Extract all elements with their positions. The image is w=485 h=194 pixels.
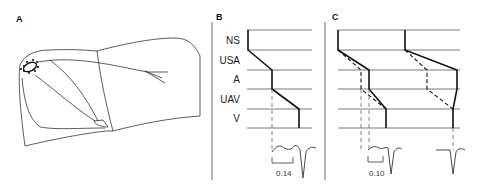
panel-c-label: C [332,12,339,22]
row-label-usa: USA [219,55,240,66]
panel-b-conduction-path [248,30,299,128]
row-label-a: A [233,74,240,85]
panel-c-alternate-paths [338,50,453,109]
panel-a-label: A [16,14,23,24]
panel-c-dashed-guides [361,89,453,150]
panel-b-label: B [216,12,223,22]
figure: A B NS USA A UAV V [0,0,485,194]
panel-c-interval-bracket [368,156,383,162]
panel-c-gridlines [338,30,460,128]
row-labels: NS USA A UAV V [219,35,240,124]
panel-b-interval-bracket [272,157,293,163]
sinus-node-icon [20,59,39,74]
panel-c-ecg-waveform-2 [436,149,465,174]
row-label-ns: NS [226,35,240,46]
panel-b-interval-label: 0.14 [276,169,292,178]
row-label-uav: UAV [220,94,240,105]
row-label-v: V [233,113,240,124]
heart-conduction-drawing [19,38,200,146]
panel-c-interval-label: 0.10 [369,169,385,178]
panel-c-conduction-paths [338,30,457,128]
panel-b-gridlines [247,30,312,128]
